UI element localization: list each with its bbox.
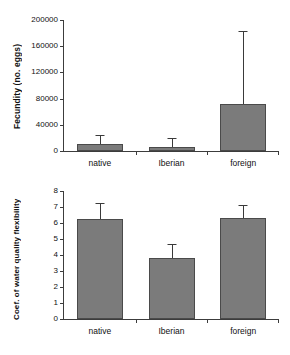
y-axis-tick bbox=[60, 271, 64, 272]
x-axis-label-iberian: Iberian bbox=[159, 159, 185, 168]
plot-area-fecundity: 04000080000120000160000200000nativeIberi… bbox=[63, 20, 279, 152]
x-axis-label-iberian: Iberian bbox=[159, 327, 185, 336]
bar-foreign bbox=[220, 104, 266, 151]
y-axis-tick-label: 3 bbox=[54, 267, 58, 275]
y-axis-tick-label: 0 bbox=[54, 315, 58, 323]
bar-foreign bbox=[220, 218, 266, 319]
y-axis-title-fecundity: Fecundity (no. eggs) bbox=[12, 22, 22, 150]
y-axis-tick bbox=[60, 223, 64, 224]
x-axis-tick bbox=[278, 319, 279, 323]
bar-native bbox=[77, 219, 123, 319]
x-axis-tick bbox=[136, 151, 137, 155]
x-axis-tick bbox=[207, 151, 208, 155]
y-axis-tick bbox=[60, 287, 64, 288]
figure-two-panel-bar-charts: Fecundity (no. eggs) 0400008000012000016… bbox=[0, 0, 290, 355]
y-axis-tick-label: 5 bbox=[54, 235, 58, 243]
y-axis-tick-label: 1 bbox=[54, 299, 58, 307]
error-bar-iberian bbox=[172, 138, 173, 147]
y-axis-tick-label: 4 bbox=[54, 251, 58, 259]
error-bar-cap-foreign bbox=[239, 31, 248, 32]
bar-native bbox=[77, 144, 123, 151]
y-axis-tick-label: 40000 bbox=[36, 121, 58, 129]
bar-iberian bbox=[149, 258, 195, 319]
plot-area-water-quality-flexibility: 012345678nativeIberianforeign bbox=[63, 191, 279, 320]
chart-panel-water-quality-flexibility: Coef. of water quality flexibility 01234… bbox=[0, 177, 290, 355]
x-axis-tick bbox=[278, 151, 279, 155]
y-axis-tick bbox=[60, 303, 64, 304]
error-bar-cap-iberian bbox=[167, 244, 176, 245]
x-axis-label-native: native bbox=[88, 159, 111, 168]
error-bar-iberian bbox=[172, 244, 173, 258]
y-axis-tick-label: 6 bbox=[54, 219, 58, 227]
y-axis-tick bbox=[60, 319, 64, 320]
x-axis-tick bbox=[207, 319, 208, 323]
error-bar-native bbox=[100, 203, 101, 219]
error-bar-foreign bbox=[243, 31, 244, 104]
y-axis-tick bbox=[60, 125, 64, 126]
y-axis-tick bbox=[60, 255, 64, 256]
error-bar-cap-iberian bbox=[167, 138, 176, 139]
x-axis-label-native: native bbox=[88, 327, 111, 336]
y-axis-tick-label: 120000 bbox=[31, 68, 58, 76]
y-axis-tick-label: 8 bbox=[54, 187, 58, 195]
y-axis-tick bbox=[60, 20, 64, 21]
error-bar-foreign bbox=[243, 205, 244, 219]
y-axis-tick-label: 200000 bbox=[31, 16, 58, 24]
x-axis-tick bbox=[136, 319, 137, 323]
y-axis-tick bbox=[60, 46, 64, 47]
y-axis-tick-label: 160000 bbox=[31, 42, 58, 50]
y-axis-tick bbox=[60, 239, 64, 240]
y-axis-tick bbox=[60, 191, 64, 192]
y-axis-tick bbox=[60, 151, 64, 152]
y-axis-tick-label: 0 bbox=[54, 147, 58, 155]
y-axis-tick bbox=[60, 99, 64, 100]
y-axis-title-water-quality-flexibility: Coef. of water quality flexibility bbox=[12, 189, 21, 329]
y-axis-tick-label: 2 bbox=[54, 283, 58, 291]
bar-iberian bbox=[149, 147, 195, 151]
error-bar-cap-native bbox=[95, 135, 104, 136]
y-axis-tick bbox=[60, 207, 64, 208]
error-bar-cap-native bbox=[95, 203, 104, 204]
y-axis-tick bbox=[60, 72, 64, 73]
chart-panel-fecundity: Fecundity (no. eggs) 0400008000012000016… bbox=[0, 0, 290, 178]
error-bar-native bbox=[100, 135, 101, 145]
error-bar-cap-foreign bbox=[239, 205, 248, 206]
y-axis-tick-label: 7 bbox=[54, 203, 58, 211]
x-axis-label-foreign: foreign bbox=[230, 159, 256, 168]
x-axis-label-foreign: foreign bbox=[230, 327, 256, 336]
y-axis-tick-label: 80000 bbox=[36, 95, 58, 103]
